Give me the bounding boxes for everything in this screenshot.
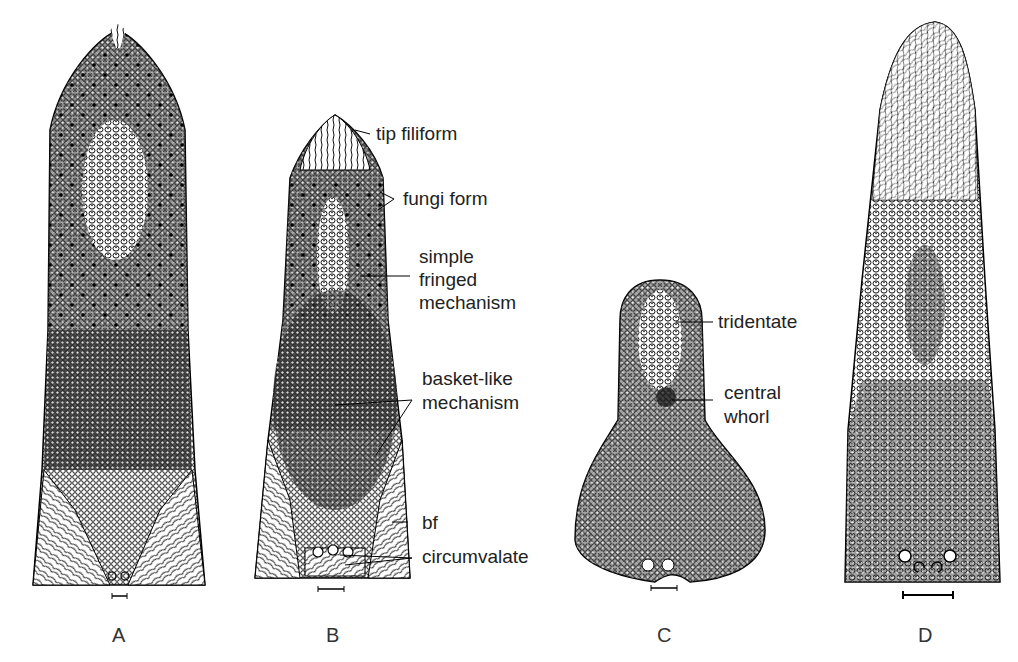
tongue-d (845, 22, 1000, 599)
tongue-b (255, 115, 412, 592)
label-whorl: whorl (724, 406, 769, 428)
label-tip-filiform: tip filiform (376, 123, 457, 145)
label-mechanism-2: mechanism (422, 392, 519, 414)
label-tridentate: tridentate (718, 311, 797, 333)
label-mechanism-1: mechanism (419, 292, 516, 314)
label-basket-like: basket-like (422, 368, 513, 390)
label-circumvalate: circumvalate (422, 546, 529, 568)
label-fringed: fringed (419, 269, 477, 291)
label-bf: bf (422, 512, 438, 534)
panel-label-c: C (657, 624, 671, 647)
panel-label-b: B (326, 624, 339, 647)
panel-label-d: D (918, 624, 932, 647)
label-simple: simple (419, 246, 474, 268)
tongue-a (33, 24, 205, 599)
label-central: central (724, 382, 781, 404)
label-fungi-form: fungi form (403, 188, 487, 210)
panel-label-a: A (112, 624, 125, 647)
